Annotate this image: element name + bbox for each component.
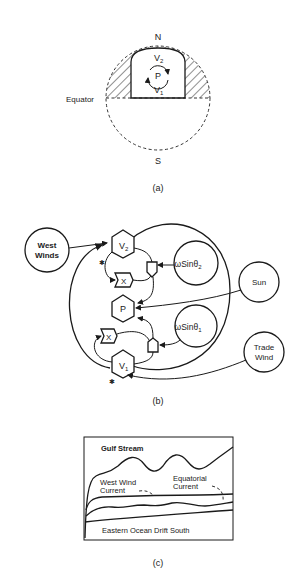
caption-b: (b) [153, 396, 164, 406]
valve-lower-in [134, 352, 153, 364]
x-upper-label: X [121, 277, 127, 286]
valve-lower-node [148, 338, 158, 352]
gulf-stream-label: Gulf Stream [101, 444, 144, 453]
x-lower-label: X [106, 333, 112, 342]
equatorial-label-line2: Current [173, 482, 199, 491]
x-lower-out [117, 332, 150, 342]
x-upper-loop [105, 252, 115, 280]
south-label: S [155, 156, 161, 166]
trade-wind-node [244, 332, 284, 372]
sink-icon-v2: ✱ [99, 259, 105, 266]
trade-wind-label-line1: Trade [254, 343, 275, 352]
equator-label: Equator [66, 95, 94, 104]
figure: N S Equator V2 P V1 (a) West Winds V2 ✱ … [0, 0, 299, 574]
panel-c: Gulf Stream West Wind Current Equatorial… [84, 437, 233, 568]
omega-sin-theta1-label: ωSinθ1 [175, 322, 203, 333]
panel-a: N S Equator V2 P V1 (a) [66, 32, 210, 193]
caption-c: (c) [153, 558, 164, 568]
west-winds-node [25, 228, 69, 272]
trade-wind-label-line2: Wind [255, 353, 273, 362]
omega1-connector [160, 340, 180, 345]
valve-upper-node [147, 262, 157, 277]
p-node-label: P [120, 304, 126, 314]
sun-label: Sun [252, 278, 266, 287]
caption-a: (a) [153, 183, 164, 193]
sink-icon-v1: ✱ [109, 378, 115, 385]
west-winds-label-line1: West [38, 241, 57, 250]
north-label: N [155, 32, 162, 42]
west-wind-label-line2: Current [100, 486, 126, 495]
valve-upper-in [134, 248, 152, 262]
v1-label: V1 [154, 85, 164, 96]
west-winds-label-line2: Winds [35, 251, 59, 260]
omega-sin-theta2-label: ωSinθ2 [175, 259, 203, 270]
valve-lower-to-p [138, 318, 153, 338]
panel-b: West Winds V2 ✱ X ωSinθ2 P Sun ωSinθ1 [25, 224, 284, 406]
v2-label: V2 [154, 53, 164, 64]
eastern-ocean-label: Eastern Ocean Drift South [102, 526, 190, 535]
p-label: P [155, 71, 161, 81]
